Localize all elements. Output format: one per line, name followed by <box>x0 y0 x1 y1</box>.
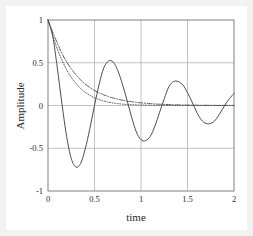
y-tick-label: -1 <box>36 186 43 196</box>
y-tick-label: 0 <box>39 101 43 111</box>
tick-labels-layer: 00.511.52-1-0.500.51 <box>30 15 237 204</box>
x-axis-title: time <box>126 211 146 223</box>
y-axis-title: Amplitude <box>14 82 26 129</box>
x-tick-label: 1.5 <box>182 194 193 204</box>
y-tick-label: 1 <box>39 15 43 25</box>
amplitude-vs-time-chart: 00.511.52-1-0.500.51 time Amplitude <box>6 6 247 230</box>
plot-wrapper: 00.511.52-1-0.500.51 time Amplitude <box>6 6 247 230</box>
x-tick-label: 2 <box>232 194 236 204</box>
figure-container: 00.511.52-1-0.500.51 time Amplitude <box>0 0 253 236</box>
x-tick-label: 0 <box>46 194 50 204</box>
x-tick-label: 1 <box>139 194 143 204</box>
y-tick-label: 0.5 <box>32 58 43 68</box>
y-tick-label: -0.5 <box>30 143 43 153</box>
x-tick-label: 0.5 <box>89 194 100 204</box>
